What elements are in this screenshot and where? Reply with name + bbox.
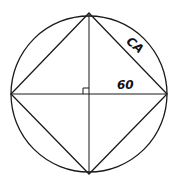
right-angle-marker [83, 88, 89, 94]
inscribed-square-diagram: CA 60 [0, 0, 178, 185]
radius-label: 60 [117, 78, 134, 92]
